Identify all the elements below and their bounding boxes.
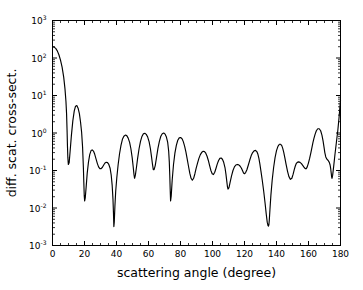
y-axis-title: diff. scat. cross-sect. [4, 69, 19, 198]
x-tick-label-20: 20 [79, 249, 91, 259]
axis-titles-layer: scattering angle (degree)diff. scat. cro… [4, 69, 276, 280]
plot-canvas: 02040608010012014016018010-310-210-11001… [0, 0, 363, 290]
scattering-cross-section-figure: 02040608010012014016018010-310-210-11001… [0, 0, 363, 290]
x-axis-title: scattering angle (degree) [117, 265, 276, 280]
plot-frame [53, 21, 341, 246]
y-tick-label-6: 103 [31, 14, 46, 26]
x-tick-label-160: 160 [300, 249, 317, 259]
x-tick-label-0: 0 [50, 249, 56, 259]
y-tick-label-0: 10-3 [29, 239, 47, 251]
tick-marks-layer [53, 21, 341, 246]
y-tick-label-4: 101 [31, 89, 46, 101]
data-curve-layer [53, 47, 341, 227]
x-tick-label-140: 140 [268, 249, 285, 259]
y-tick-label-3: 100 [31, 127, 46, 139]
x-tick-label-40: 40 [111, 249, 123, 259]
x-tick-label-180: 180 [332, 249, 349, 259]
data-curve [53, 47, 341, 227]
x-tick-label-120: 120 [236, 249, 253, 259]
y-tick-label-2: 10-1 [29, 164, 47, 176]
axes-frame-layer [53, 21, 341, 246]
y-tick-label-1: 10-2 [29, 202, 47, 214]
tick-labels-layer: 02040608010012014016018010-310-210-11001… [29, 14, 349, 259]
y-tick-label-5: 102 [31, 52, 46, 64]
x-tick-label-100: 100 [204, 249, 221, 259]
x-tick-label-80: 80 [175, 249, 187, 259]
x-tick-label-60: 60 [143, 249, 155, 259]
